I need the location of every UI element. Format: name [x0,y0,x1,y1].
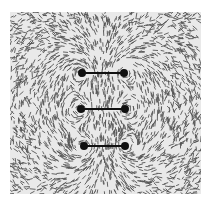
iron-filings [10,12,201,194]
iron-filings-photo [10,12,201,194]
conductor-1 [78,69,128,77]
magnetic-field-pattern [10,12,201,194]
